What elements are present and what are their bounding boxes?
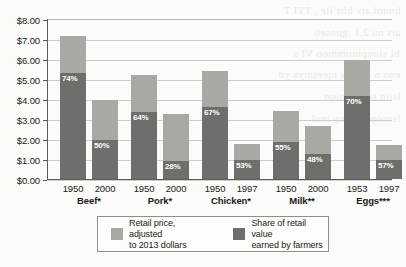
gridline (47, 40, 392, 41)
bar-retail-price: 55% (273, 111, 299, 179)
bar-segment-farmer-share: 48% (305, 154, 331, 179)
legend-item-farmer-share: Share of retail value earned by farmers (233, 218, 328, 251)
x-axis-category-label: Chicken* (191, 195, 271, 206)
y-axis-label: $2.00 (17, 135, 40, 146)
y-axis-label: $8.00 (17, 15, 40, 26)
bar-segment-farmer-share: 70% (344, 96, 370, 179)
bar-segment-farmer-share: 55% (273, 142, 299, 179)
bar-retail-price: 70% (344, 60, 370, 179)
bar-share-percent-label: 50% (94, 141, 109, 150)
y-axis-label: $5.00 (17, 75, 40, 86)
bar-retail-price: 50% (92, 100, 118, 179)
bar-share-percent-label: 70% (346, 97, 361, 106)
legend-swatch-farmer-share (233, 228, 245, 240)
plot-area: $0.00$1.00$2.00$3.00$4.00$5.00$6.00$7.00… (47, 19, 392, 179)
bar-segment-farmer-share: 28% (163, 161, 189, 179)
bar-retail-price: 28% (163, 114, 189, 179)
bar-retail-price: 53% (234, 144, 260, 179)
bar-segment-farmer-share: 53% (234, 160, 260, 179)
x-axis-year-label: 1997 (369, 183, 406, 194)
bar-retail-price: 48% (305, 126, 331, 179)
bar-retail-price: 57% (376, 145, 402, 179)
x-axis-category-label: Milk** (262, 195, 342, 206)
x-axis-year-label: 2000 (156, 183, 196, 194)
legend-label-farmer-share: Share of retail value earned by farmers (251, 218, 328, 251)
bar-share-percent-label: 28% (165, 162, 180, 171)
bar-share-percent-label: 53% (236, 161, 251, 170)
legend-label-retail-price: Retail price, adjusted to 2013 dollars (129, 218, 209, 251)
x-axis-year-label: 1997 (227, 183, 267, 194)
x-axis-category-label: Beef* (49, 195, 129, 206)
y-axis-label: $4.00 (17, 95, 40, 106)
bar-share-percent-label: 48% (307, 155, 322, 164)
gridline (47, 180, 392, 181)
y-axis-label: $0.00 (17, 175, 40, 186)
gridline (47, 60, 392, 61)
bar-share-percent-label: 74% (62, 74, 77, 83)
bar-retail-price: 64% (131, 75, 157, 179)
x-axis-category-label: Pork* (120, 195, 200, 206)
y-axis-line (47, 19, 48, 180)
bar-segment-farmer-share: 64% (131, 112, 157, 179)
legend-swatch-retail-price (111, 228, 123, 240)
bar-chart: $0.00$1.00$2.00$3.00$4.00$5.00$6.00$7.00… (0, 0, 406, 267)
x-axis-year-label: 2000 (298, 183, 338, 194)
legend-item-retail-price: Retail price, adjusted to 2013 dollars (111, 218, 209, 251)
bar-share-percent-label: 64% (133, 113, 148, 122)
y-axis-label: $7.00 (17, 35, 40, 46)
x-axis-line (47, 179, 392, 180)
bar-share-percent-label: 55% (275, 143, 290, 152)
bar-segment-farmer-share: 67% (202, 107, 228, 179)
bar-share-percent-label: 57% (378, 161, 393, 170)
bar-retail-price: 67% (202, 71, 228, 179)
bar-share-percent-label: 67% (204, 108, 219, 117)
y-axis-label: $3.00 (17, 115, 40, 126)
bar-retail-price: 74% (60, 36, 86, 179)
bar-segment-farmer-share: 74% (60, 73, 86, 179)
bar-segment-farmer-share: 50% (92, 140, 118, 180)
x-axis-year-label: 2000 (85, 183, 125, 194)
y-axis-label: $6.00 (17, 55, 40, 66)
chart-legend: Retail price, adjusted to 2013 dollars S… (97, 216, 329, 252)
x-axis-category-label: Eggs*** (333, 195, 406, 206)
bar-segment-farmer-share: 57% (376, 160, 402, 179)
y-axis-label: $1.00 (17, 155, 40, 166)
y-axis-tick (43, 180, 47, 181)
